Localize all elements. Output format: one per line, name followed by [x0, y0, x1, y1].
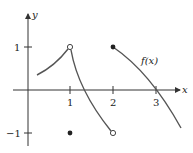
- filled-point-1-neg1: [68, 131, 73, 136]
- open-point-1-1: [67, 44, 72, 49]
- y-tick-label-1: 1: [14, 42, 20, 53]
- curve-piece-1: [37, 49, 68, 75]
- y-axis-label: y: [31, 9, 38, 20]
- x-tick-label-3: 3: [153, 97, 159, 108]
- graph: 1 2 3 1 −1 x y f(x): [0, 0, 193, 153]
- x-tick-label-2: 2: [110, 97, 116, 108]
- function-label: f(x): [140, 55, 158, 66]
- open-point-2-neg1: [110, 130, 115, 135]
- x-tick-label-1: 1: [67, 97, 73, 108]
- y-tick-label-neg1: −1: [6, 128, 21, 139]
- x-axis-label: x: [182, 84, 188, 95]
- filled-point-2-1: [111, 45, 116, 50]
